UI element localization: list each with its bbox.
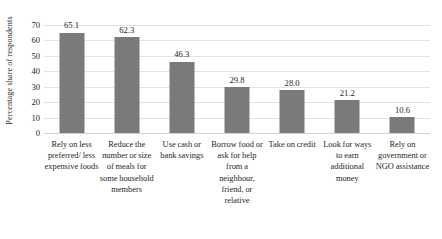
x-category-label: Reduce the number or size of meals for s… (99, 139, 154, 195)
bar-slot: 21.2 (320, 25, 375, 133)
y-axis-title: Percentage share of respondents (0, 0, 18, 140)
y-tick-label: 70 (31, 21, 40, 30)
bar[interactable] (169, 62, 194, 133)
bar[interactable] (224, 87, 249, 133)
y-tick-label: 20 (31, 98, 40, 107)
bar-slot: 46.3 (154, 25, 209, 133)
y-tick-label: 0 (36, 129, 40, 138)
bar[interactable] (114, 37, 139, 133)
bar[interactable] (280, 90, 305, 133)
bar[interactable] (390, 117, 415, 133)
bar-chart: Percentage share of respondents 70605040… (0, 0, 442, 239)
bar[interactable] (59, 33, 84, 133)
bar-value-label: 21.2 (340, 89, 355, 98)
bar-slot: 62.3 (99, 25, 154, 133)
y-tick-label: 30 (31, 82, 40, 91)
y-axis-title-text: Percentage share of respondents (5, 16, 14, 124)
y-axis-tick-labels: 706050403020100 (18, 25, 40, 133)
x-category-label: Take on credit (265, 139, 320, 150)
x-category-label: Look for ways to earn additional money (320, 139, 375, 184)
gridline-0 (44, 133, 430, 134)
bars-layer: 65.162.346.329.828.021.210.6 (44, 25, 430, 133)
x-category-label: Rely on government or NGO assistance (375, 139, 430, 173)
bar-value-label: 28.0 (285, 79, 300, 88)
bar-value-label: 10.6 (395, 106, 410, 115)
y-tick-label: 50 (31, 52, 40, 61)
y-tick-label: 10 (31, 113, 40, 122)
y-tick-label: 60 (31, 36, 40, 45)
bar-slot: 65.1 (44, 25, 99, 133)
y-tick-label: 40 (31, 67, 40, 76)
bar-value-label: 46.3 (174, 50, 189, 59)
bar[interactable] (335, 100, 360, 133)
bar-slot: 28.0 (265, 25, 320, 133)
bar-value-label: 65.1 (64, 21, 79, 30)
bar-value-label: 62.3 (119, 26, 134, 35)
x-axis-category-labels: Rely on less preferred/ less expensive f… (44, 139, 430, 239)
x-category-label: Rely on less preferred/ less expensive f… (44, 139, 99, 173)
bar-slot: 10.6 (375, 25, 430, 133)
x-category-label: Borrow food or ask for help from a neigh… (209, 139, 264, 206)
bar-slot: 29.8 (209, 25, 264, 133)
x-category-label: Use cash or bank savings (154, 139, 209, 161)
bar-value-label: 29.8 (229, 76, 244, 85)
